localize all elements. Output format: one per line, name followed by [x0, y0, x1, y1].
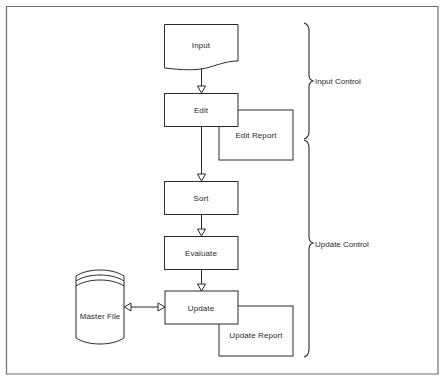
update-control-brace	[304, 140, 313, 357]
update-control-label: Update Control	[315, 240, 369, 249]
flowchart-canvas	[0, 0, 443, 380]
arrowhead-down-icon	[198, 229, 206, 236]
update-report-label: Update Report	[229, 331, 282, 340]
edit-label: Edit	[194, 106, 208, 115]
update-label: Update	[188, 304, 214, 313]
sort-label: Sort	[193, 194, 208, 203]
arrowhead-down-icon	[198, 174, 206, 181]
arrowhead-left-icon	[125, 303, 132, 311]
arrowhead-down-icon	[198, 86, 206, 93]
input-control-brace	[304, 23, 313, 139]
input-control-label: Input Control	[315, 77, 361, 86]
arrowhead-down-icon	[198, 284, 206, 291]
master-file-label: Master File	[80, 312, 121, 321]
master-file-cylinder	[76, 270, 124, 344]
input-label: Input	[192, 41, 210, 50]
arrowhead-right-icon	[158, 303, 165, 311]
edit-report-label: Edit Report	[235, 131, 276, 140]
evaluate-label: Evaluate	[185, 249, 217, 258]
